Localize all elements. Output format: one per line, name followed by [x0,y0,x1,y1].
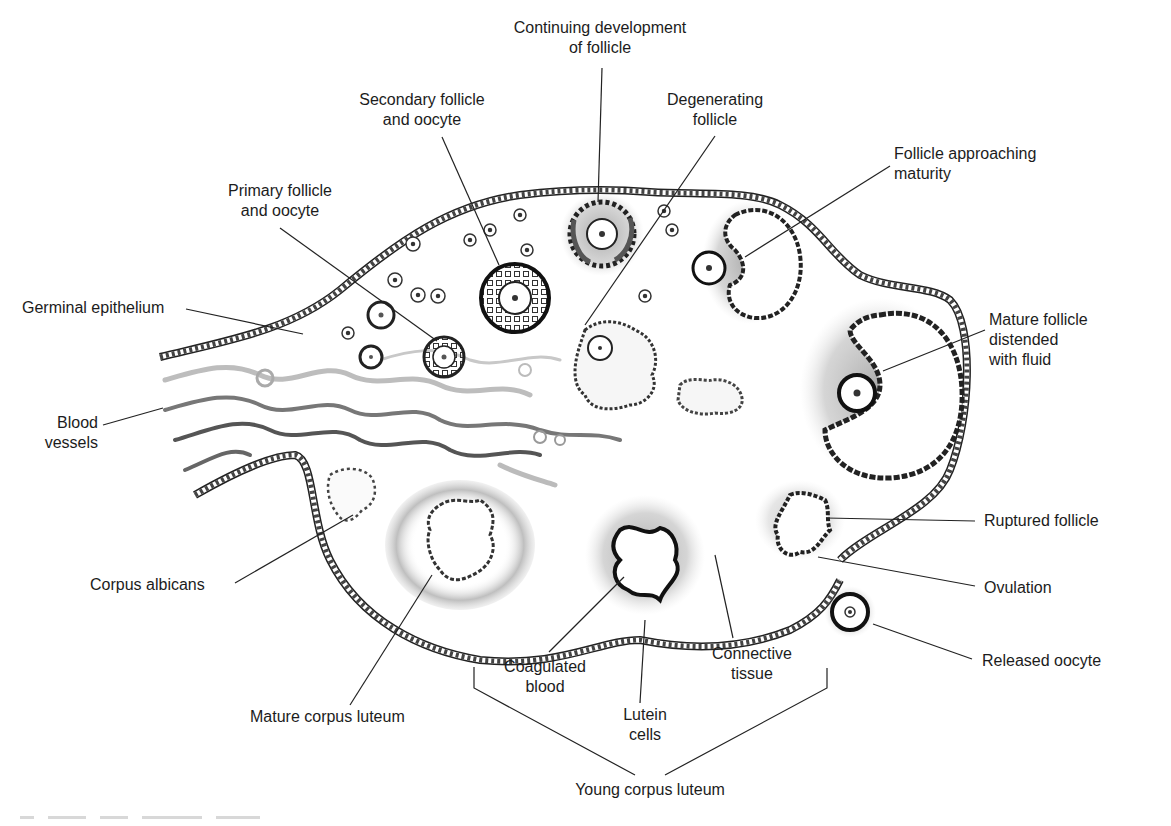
degenerating-follicle [575,322,656,409]
figure-caption-truncated [20,816,320,826]
label-connective-tissue: Connective tissue [697,644,807,684]
developing-follicle [560,192,644,276]
label-ruptured-follicle: Ruptured follicle [984,511,1099,531]
corpus-albicans [328,469,375,521]
follicle-approaching-maturity [693,200,801,324]
label-coagulated-blood: Coagulated blood [490,657,600,697]
mature-follicle [800,298,962,482]
label-blood-vessels: Blood vessels [20,413,98,453]
label-ovulation: Ovulation [984,578,1052,598]
released-oocyte [824,586,876,638]
ovary-diagram [0,0,1171,826]
secondary-follicle [481,264,549,332]
label-young-corpus-luteum: Young corpus luteum [540,780,760,800]
label-germinal-epithelium: Germinal epithelium [22,298,164,318]
label-secondary-follicle: Secondary follicle and oocyte [337,90,507,130]
young-corpus-luteum [585,495,705,615]
label-lutein-cells: Lutein cells [605,705,685,745]
label-released-oocyte: Released oocyte [982,651,1101,671]
ruptured-follicle [755,480,845,560]
label-continuing-development: Continuing development of follicle [495,18,705,58]
label-mature-corpus-luteum: Mature corpus luteum [250,707,405,727]
label-primary-follicle: Primary follicle and oocyte [205,181,355,221]
label-follicle-approaching-maturity: Follicle approaching maturity [894,144,1036,184]
label-mature-follicle: Mature follicle distended with fluid [989,310,1088,370]
primary-follicle [360,302,464,377]
blood-vessels [165,351,620,485]
mature-corpus-luteum [385,480,535,610]
label-corpus-albicans: Corpus albicans [90,575,205,595]
label-degenerating-follicle: Degenerating follicle [655,90,775,130]
atretic-body [678,379,742,413]
